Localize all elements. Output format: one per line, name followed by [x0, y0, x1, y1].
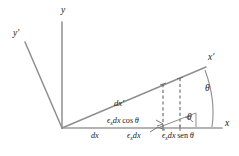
- dx-body: dx: [133, 131, 141, 140]
- dx-body: dx: [113, 116, 121, 125]
- trig-func: cos: [122, 116, 133, 125]
- term-dx: dx: [91, 132, 99, 140]
- term-eps-dx-cos-theta: ϵxdx cos θ: [107, 117, 139, 126]
- diagram-canvas: [0, 0, 239, 156]
- y-prime-axis-line: [25, 42, 62, 128]
- theta-symbol: θ: [135, 116, 139, 125]
- angle-label-theta-outer: θ: [205, 84, 210, 94]
- theta-symbol: θ: [190, 131, 194, 140]
- cos-leader-arrow: [156, 120, 163, 126]
- angle-label-theta-inner: θ: [187, 113, 192, 123]
- dx-body: dx: [168, 131, 176, 140]
- segment-label-dx-prime: dx': [114, 99, 124, 108]
- term-eps-dx: ϵxdx: [127, 132, 141, 141]
- strain-rotation-diagram: y y' x x' θ θ dx' ϵxdx cos θ dx ϵxdx ϵxd…: [0, 0, 239, 156]
- axis-label-x-prime: x': [208, 53, 214, 63]
- axis-label-x: x: [225, 119, 229, 129]
- term-eps-dx-sen-theta: ϵxdx sen θ: [162, 132, 194, 141]
- axis-label-y-prime: y': [13, 29, 19, 39]
- axis-label-y: y: [61, 6, 65, 16]
- trig-func: sen: [177, 131, 188, 140]
- theta-arc-outer: [205, 70, 213, 127]
